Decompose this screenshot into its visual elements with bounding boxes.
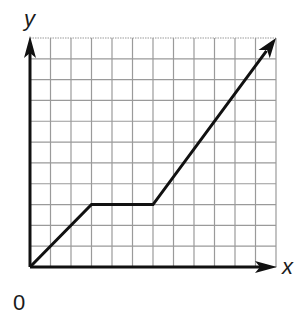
grid	[30, 38, 276, 267]
line-end-arrow-icon	[258, 38, 276, 58]
graph-canvas	[0, 0, 303, 324]
y-axis-label: y	[24, 8, 35, 30]
origin-label: 0	[13, 292, 25, 314]
x-axis-label: x	[282, 256, 293, 278]
graph-line	[30, 51, 266, 267]
y-axis	[24, 36, 36, 267]
